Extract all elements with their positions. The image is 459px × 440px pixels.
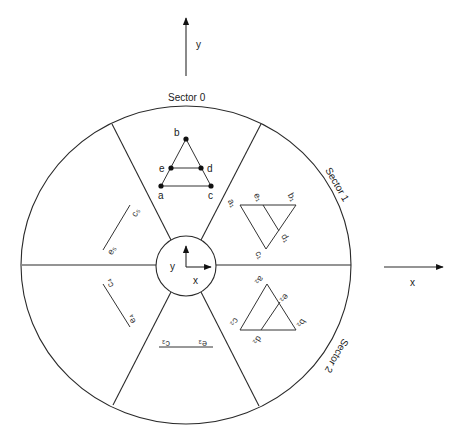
local-y-label: y	[170, 261, 175, 272]
point-d	[198, 165, 203, 170]
label-b: b	[174, 127, 180, 138]
label-c3: c₃	[162, 339, 171, 349]
label-b1: b₁	[286, 191, 299, 203]
label-d1: d₁	[279, 232, 292, 244]
label-d2: d₂	[251, 334, 264, 347]
label-e1: e₁	[252, 191, 265, 203]
label-a: a	[158, 190, 164, 201]
sector-0-label: Sector 0	[168, 92, 206, 103]
point-a	[158, 183, 163, 188]
label-c2: c₂	[228, 316, 241, 328]
sector-0-triangle: b e d a c	[158, 127, 214, 201]
label-e5: e₅	[105, 244, 118, 257]
label-c1: c₁	[253, 249, 265, 261]
label-e2: e₂	[278, 292, 291, 305]
label-c: c	[208, 190, 213, 201]
label-b2: b₂	[295, 317, 308, 330]
point-e	[168, 165, 173, 170]
label-a1: a₁	[226, 197, 239, 209]
sector-4-edge: c₄ e₄	[103, 277, 138, 327]
local-x-label: x	[193, 275, 198, 286]
global-x-label: x	[410, 277, 415, 288]
label-e: e	[159, 163, 165, 174]
sector-2-label: Sector 2	[322, 337, 350, 375]
divider-lower-right	[201, 292, 259, 406]
label-a2: a₂	[253, 274, 266, 287]
divider-upper-right	[201, 124, 261, 240]
point-b	[183, 136, 188, 141]
sector-diagram: y x y x Sector 0 Sector 1 Sector 2 b	[0, 0, 459, 440]
label-e4: e₄	[125, 313, 138, 326]
local-axes: y x	[170, 246, 211, 286]
label-c5: c₅	[129, 206, 142, 218]
sector-2-triangle: a₂ e₂ b₂ c₂ d₂	[228, 274, 308, 347]
label-d: d	[207, 163, 213, 174]
global-y-axis: y	[186, 18, 201, 76]
divider-upper-left	[112, 124, 171, 240]
global-y-label: y	[196, 39, 201, 50]
point-c	[208, 183, 213, 188]
sector-1-label: Sector 1	[323, 166, 351, 204]
sector-3-edge: c₃ e₃	[159, 339, 213, 349]
label-e3: e₃	[198, 339, 207, 349]
global-x-axis: x	[384, 267, 443, 288]
sector-5-edge: c₅ e₅	[103, 205, 142, 256]
sector-1-triangle: a₁ e₁ b₁ d₁ c₁	[226, 191, 299, 260]
